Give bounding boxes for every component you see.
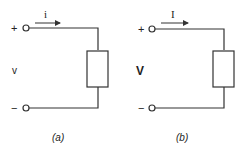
minus-terminal-label: − [11,102,17,114]
plus-terminal-label: + [138,23,144,35]
circuit-b: + − V I (b) [136,8,234,143]
bottom-terminal [23,105,29,111]
bottom-wire [155,87,224,108]
voltage-label: V [136,64,144,78]
current-label: i [44,8,47,20]
top-wire [155,29,224,50]
resistor-element [213,51,234,87]
resistor-element [87,51,108,87]
figure-caption: (a) [52,132,64,143]
plus-terminal-label: + [11,22,17,34]
bottom-wire [29,87,98,108]
circuit-a: + − v i (a) [11,8,108,143]
minus-terminal-label: − [138,102,144,114]
top-terminal [23,25,29,31]
circuit-diagrams: + − v i (a) + − V I (b) [0,0,247,152]
figure-caption: (b) [176,132,188,143]
top-wire [29,28,98,50]
bottom-terminal [149,105,155,111]
current-label: I [171,8,175,20]
top-terminal [149,26,155,32]
voltage-label: v [12,65,17,76]
